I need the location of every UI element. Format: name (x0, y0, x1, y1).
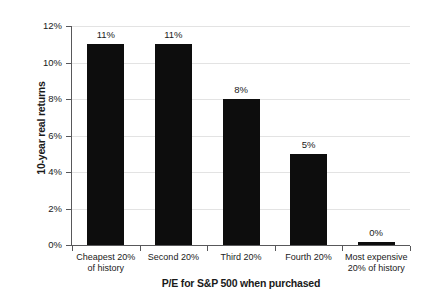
x-axis-tick (275, 246, 276, 251)
bar-value-label: 0% (346, 227, 406, 238)
y-axis-tick-label: 4% (0, 166, 62, 177)
y-axis-tick (66, 209, 71, 210)
bar-value-label: 11% (143, 29, 203, 40)
y-axis-tick-label: 12% (0, 20, 62, 31)
x-axis-category-line: Most expensive (336, 252, 416, 263)
x-axis-tick (410, 246, 411, 251)
chart-figure: 10-year real returns 0%2%4%6%8%10%12% 11… (0, 0, 427, 298)
plot-area (72, 26, 410, 245)
y-axis-tick (66, 63, 71, 64)
x-axis-title: P/E for S&P 500 when purchased (72, 277, 410, 289)
bar-value-label: 5% (279, 139, 339, 150)
y-axis-tick-label: 2% (0, 203, 62, 214)
y-axis-tick-label: 10% (0, 57, 62, 68)
bar (223, 99, 260, 245)
x-axis-tick (342, 246, 343, 251)
bar-value-label: 11% (76, 29, 136, 40)
x-axis-line (71, 245, 410, 246)
y-axis-tick-label: 0% (0, 239, 62, 250)
y-axis-tick (66, 245, 71, 246)
bar-value-label: 8% (211, 84, 271, 95)
gridline (72, 26, 410, 27)
bar (290, 154, 327, 245)
y-axis-tick-label: 8% (0, 93, 62, 104)
y-axis-tick-label: 6% (0, 130, 62, 141)
x-axis-tick (207, 246, 208, 251)
x-axis-category-label: Most expensive20% of history (336, 252, 416, 274)
x-axis-category-line: of history (66, 263, 146, 274)
x-axis-tick (72, 246, 73, 251)
bar (358, 242, 395, 246)
y-axis-tick (66, 172, 71, 173)
y-axis-tick (66, 26, 71, 27)
x-axis-tick (140, 246, 141, 251)
bar (87, 44, 124, 245)
x-axis-category-line: 20% of history (336, 263, 416, 274)
y-axis-tick (66, 136, 71, 137)
bar (155, 44, 192, 245)
y-axis-tick (66, 99, 71, 100)
